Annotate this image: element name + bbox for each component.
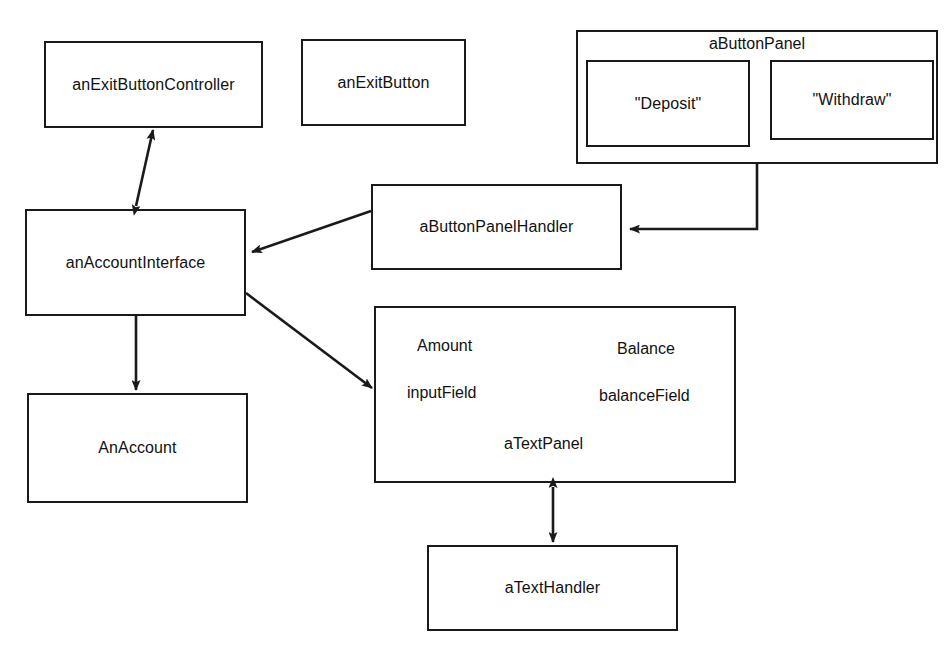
node-a-button-panel-handler[interactable]: aButtonPanelHandler bbox=[371, 184, 622, 270]
text-panel-balance-label: Balance bbox=[617, 340, 675, 358]
node-an-account-interface[interactable]: anAccountInterface bbox=[25, 209, 246, 316]
node-label: "Withdraw" bbox=[812, 91, 891, 109]
node-label: aTextHandler bbox=[505, 579, 600, 597]
edge-interface-exitcontroller bbox=[136, 130, 153, 206]
node-deposit-button[interactable]: "Deposit" bbox=[586, 60, 750, 147]
edge-buttonpanel-handler bbox=[630, 164, 757, 229]
edge-handler-interface bbox=[252, 211, 371, 252]
text-panel-input-field-label: inputField bbox=[407, 384, 476, 402]
edge-interface-textpanel bbox=[246, 293, 372, 388]
node-label: anExitButtonController bbox=[72, 76, 234, 94]
text-panel-amount-label: Amount bbox=[417, 337, 472, 355]
node-label: anAccountInterface bbox=[66, 254, 206, 272]
node-a-text-panel[interactable]: Amount Balance inputField balanceField a… bbox=[374, 306, 736, 483]
node-a-text-handler[interactable]: aTextHandler bbox=[427, 545, 678, 631]
node-label: "Deposit" bbox=[635, 95, 702, 113]
node-an-exit-button[interactable]: anExitButton bbox=[301, 39, 466, 126]
node-a-button-panel[interactable]: aButtonPanel "Deposit" "Withdraw" bbox=[576, 30, 938, 164]
node-label: aButtonPanel bbox=[578, 35, 936, 53]
node-label: anExitButton bbox=[338, 74, 430, 92]
node-withdraw-button[interactable]: "Withdraw" bbox=[770, 60, 934, 140]
diagram-canvas: anExitButtonController anExitButton aBut… bbox=[0, 0, 949, 649]
text-panel-balance-field-label: balanceField bbox=[599, 387, 690, 405]
node-label: aTextPanel bbox=[504, 435, 583, 453]
node-label: aButtonPanelHandler bbox=[419, 218, 573, 236]
node-label: AnAccount bbox=[98, 439, 176, 457]
node-an-exit-button-controller[interactable]: anExitButtonController bbox=[44, 41, 263, 128]
node-an-account[interactable]: AnAccount bbox=[27, 393, 248, 503]
